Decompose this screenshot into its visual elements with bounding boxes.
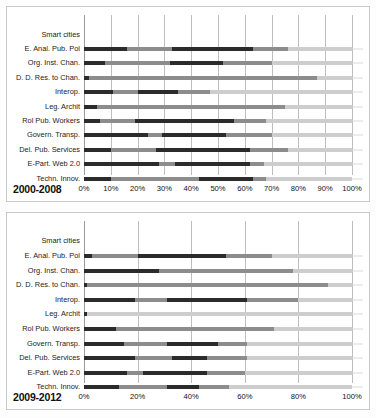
- bar-segment: [172, 47, 252, 51]
- bar-segment: [180, 269, 293, 273]
- bar-segment: [250, 162, 263, 166]
- category-label: Govern. Transp.: [27, 340, 80, 347]
- bar-segment: [87, 312, 352, 316]
- x-axis-tick-label: 0%: [79, 392, 90, 401]
- bar-segment: [253, 47, 288, 51]
- bar-segment: [116, 327, 167, 331]
- stacked-bar: [84, 90, 363, 94]
- bar-segment: [156, 148, 250, 152]
- bar-segment: [127, 371, 143, 375]
- bar-segment: [266, 177, 352, 181]
- bar-segment: [111, 76, 317, 80]
- plot-wrapper-bottom: Smart citiesE. Anal. Pub. PolOrg. Inst. …: [7, 213, 369, 409]
- bar-segment: [272, 133, 352, 137]
- category-label: Techn. Innov.: [37, 384, 80, 391]
- bar-segment: [124, 342, 167, 346]
- category-label: Leg. Archit: [45, 103, 80, 110]
- x-axis-tick-label: 70%: [264, 184, 279, 193]
- bar-segment: [207, 371, 245, 375]
- bar-segment: [138, 90, 178, 94]
- x-axis-tick-label: 30%: [157, 184, 172, 193]
- bar-segment: [105, 61, 169, 65]
- chart-panel-2000-2008: Smart citiesE. Anal. Pub. PolOrg. Inst. …: [6, 6, 370, 202]
- x-axis-tick-label: 50%: [210, 184, 225, 193]
- bar-segment: [84, 162, 159, 166]
- bar-segment: [84, 385, 119, 389]
- bar-segment: [84, 327, 116, 331]
- stacked-bar: [84, 133, 363, 137]
- x-axis-tick-label: 20%: [130, 392, 145, 401]
- stacked-bar: [84, 177, 363, 181]
- category-label: Interop.: [55, 296, 80, 303]
- stacked-bar: [84, 76, 363, 80]
- x-axis-tick-label: 100%: [342, 392, 361, 401]
- bar-segment: [89, 76, 110, 80]
- bar-segment: [285, 105, 352, 109]
- bar-segment: [84, 342, 124, 346]
- bar-segment: [247, 298, 298, 302]
- bar-segment: [172, 356, 207, 360]
- bar-segment: [218, 342, 247, 346]
- bar-segment: [210, 105, 285, 109]
- bar-segment: [135, 119, 234, 123]
- chart-panel-2009-2012: Smart citiesE. Anal. Pub. PolOrg. Inst. …: [6, 212, 370, 410]
- category-label: Del. Pub. Services: [19, 354, 80, 361]
- stacked-bar: [84, 312, 363, 316]
- bar-segment: [127, 47, 173, 51]
- bar-segment: [170, 61, 224, 65]
- stacked-bar: [84, 162, 363, 166]
- bar-segment: [178, 90, 210, 94]
- bar-segment: [317, 76, 352, 80]
- x-axis-tick-label: 80%: [291, 184, 306, 193]
- category-label: Org. Inst. Chan.: [28, 267, 80, 274]
- bar-segment: [159, 162, 175, 166]
- bar-segment: [84, 254, 92, 258]
- stacked-bar: [84, 105, 363, 109]
- bar-segment: [207, 356, 247, 360]
- bar-segment: [162, 133, 226, 137]
- category-label: Govern. Transp.: [27, 132, 80, 139]
- bar-segment: [272, 61, 352, 65]
- chart-title-bottom: 2009-2012: [13, 391, 61, 403]
- x-axis-tick-label: 60%: [237, 184, 252, 193]
- category-label: Leg. Archit: [45, 311, 80, 318]
- bar-segment: [167, 327, 274, 331]
- bar-segment: [84, 356, 135, 360]
- bar-segment: [113, 90, 137, 94]
- bar-segment: [111, 177, 199, 181]
- bar-segment: [100, 119, 135, 123]
- bar-segment: [266, 119, 352, 123]
- bar-segment: [272, 254, 352, 258]
- category-label: Techn. Innov.: [37, 175, 80, 182]
- category-label: E-Part. Web 2.0: [28, 369, 80, 376]
- category-label: D. D. Res. to Chan.: [16, 74, 80, 81]
- bar-segment: [84, 61, 105, 65]
- chart-page: Smart citiesE. Anal. Pub. PolOrg. Inst. …: [0, 0, 376, 418]
- bar-segment: [264, 162, 352, 166]
- plot-area-top: 0%10%20%30%40%50%60%70%80%90%100%: [84, 7, 363, 201]
- chart-header-label: Smart cities: [41, 31, 80, 38]
- stacked-bar: [84, 119, 363, 123]
- bar-segment: [87, 283, 328, 287]
- x-axis-tick-label: 40%: [184, 392, 199, 401]
- bar-segment: [84, 133, 148, 137]
- category-label: E-Part. Web 2.0: [28, 160, 80, 167]
- bar-segment: [167, 342, 218, 346]
- category-label: Rol Pub. Workers: [22, 325, 80, 332]
- category-label: Rol Pub. Workers: [22, 117, 80, 124]
- bar-segment: [111, 148, 157, 152]
- x-axis-tick-label: 10%: [103, 184, 118, 193]
- bar-segment: [92, 254, 138, 258]
- stacked-bar: [84, 342, 363, 346]
- bar-segment: [84, 298, 135, 302]
- bar-segment: [226, 133, 272, 137]
- stacked-bar: [84, 269, 363, 273]
- bar-segment: [226, 254, 272, 258]
- plot-area-bottom: 0%20%40%60%80%100%: [84, 213, 363, 409]
- x-axis-tick-label: 40%: [184, 184, 199, 193]
- bar-segment: [234, 119, 266, 123]
- bar-segment: [247, 342, 352, 346]
- stacked-bar: [84, 371, 363, 375]
- bar-segment: [167, 298, 247, 302]
- x-axis-tick-label: 90%: [318, 184, 333, 193]
